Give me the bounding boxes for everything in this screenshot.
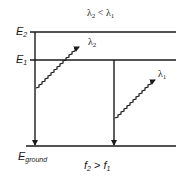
subscript: 1: [107, 165, 111, 172]
level-label-e1: E1: [16, 54, 27, 66]
subscript: 1: [111, 12, 115, 20]
subscript: 1: [23, 59, 27, 66]
operator: <: [95, 7, 106, 18]
photon-wave-lambda1: [115, 80, 155, 118]
photon-label-lambda1: λ1: [158, 69, 166, 81]
subscript: ground: [25, 156, 47, 163]
wavelength-relation: λ2 < λ1: [87, 8, 114, 20]
photon-label-lambda2: λ2: [88, 37, 96, 49]
subscript: 2: [23, 31, 27, 38]
level-label-ground: Eground: [18, 151, 47, 163]
level-label-e2: E2: [16, 26, 27, 38]
energy-level-diagram: λ2 < λ1 E2 E1 Eground λ2 λ1 f2 > f1: [0, 0, 184, 179]
operator: >: [91, 159, 104, 171]
subscript: 1: [163, 73, 167, 81]
photon-wave-lambda2: [36, 47, 79, 88]
subscript: 2: [93, 41, 97, 49]
frequency-relation: f2 > f1: [84, 160, 110, 172]
